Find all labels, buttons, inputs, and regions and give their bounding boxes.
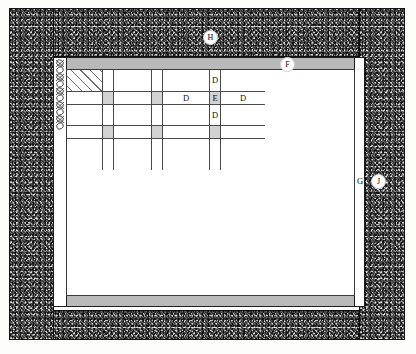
- panel-grid: DDEDD: [66, 69, 355, 296]
- panel-cell-d-r1c4: D: [163, 92, 210, 105]
- panel-cell-r2c0: [67, 105, 103, 126]
- masonry-wall-left: [10, 9, 53, 339]
- sill-band-bottom: [66, 295, 355, 307]
- panel-cell-e-r1c5: E: [210, 92, 221, 105]
- panel-cell-r3c3: [152, 126, 163, 139]
- panel-cell-r0c6: [221, 70, 265, 92]
- panel-cell-r2c6: [221, 105, 265, 126]
- panel-cell-r4c4: [163, 139, 210, 170]
- panel-cell-r4c5: [210, 139, 221, 170]
- panel-cell-r1c3: [152, 92, 163, 105]
- panel-cell-r0c2: [114, 70, 152, 92]
- panel-cell-r4c3: [152, 139, 163, 170]
- panel-cell-r4c6: [221, 139, 265, 170]
- panel-cell-r0c1: [103, 70, 114, 92]
- panel-cell-r3c0: [67, 126, 103, 139]
- callout-marker-h[interactable]: H: [203, 30, 218, 45]
- panel-cell-r4c0: [67, 139, 103, 170]
- panel-cell-r1c1: [103, 92, 114, 105]
- panel-cell-r2c4: [163, 105, 210, 126]
- masonry-wall-bottom: [53, 310, 360, 339]
- panel-cell-r2c1: [103, 105, 114, 126]
- panel-cell-r4c2: [114, 139, 152, 170]
- panel-cell-r3c4: [163, 126, 210, 139]
- panel-cell-r3c6: [221, 126, 265, 139]
- panel-cell-r3c2: [114, 126, 152, 139]
- technical-section-diagram: DDEDD H F G J: [0, 0, 416, 354]
- cable-texture-icon: [54, 58, 66, 133]
- panel-cell-r0c0: [67, 70, 103, 92]
- panel-cell-d-r1c6: D: [221, 92, 265, 105]
- panel-cell-r3c1: [103, 126, 114, 139]
- callout-marker-j[interactable]: J: [371, 174, 386, 189]
- panel-cell-d-r2c5: D: [210, 105, 221, 126]
- panel-cell-r2c3: [152, 105, 163, 126]
- callout-marker-g[interactable]: G: [355, 176, 365, 186]
- panel-cell-r1c0: [67, 92, 103, 105]
- panel-cell-d-r0c5: D: [210, 70, 221, 92]
- panel-cell-r4c1: [103, 139, 114, 170]
- panel-cell-r0c3: [152, 70, 163, 92]
- panel-cell-r0c4: [163, 70, 210, 92]
- panel-cell-r2c2: [114, 105, 152, 126]
- panel-cell-r3c5: [210, 126, 221, 139]
- callout-marker-f[interactable]: F: [280, 57, 295, 72]
- masonry-seam-bottom: [53, 310, 360, 311]
- panel-cell-r1c2: [114, 92, 152, 105]
